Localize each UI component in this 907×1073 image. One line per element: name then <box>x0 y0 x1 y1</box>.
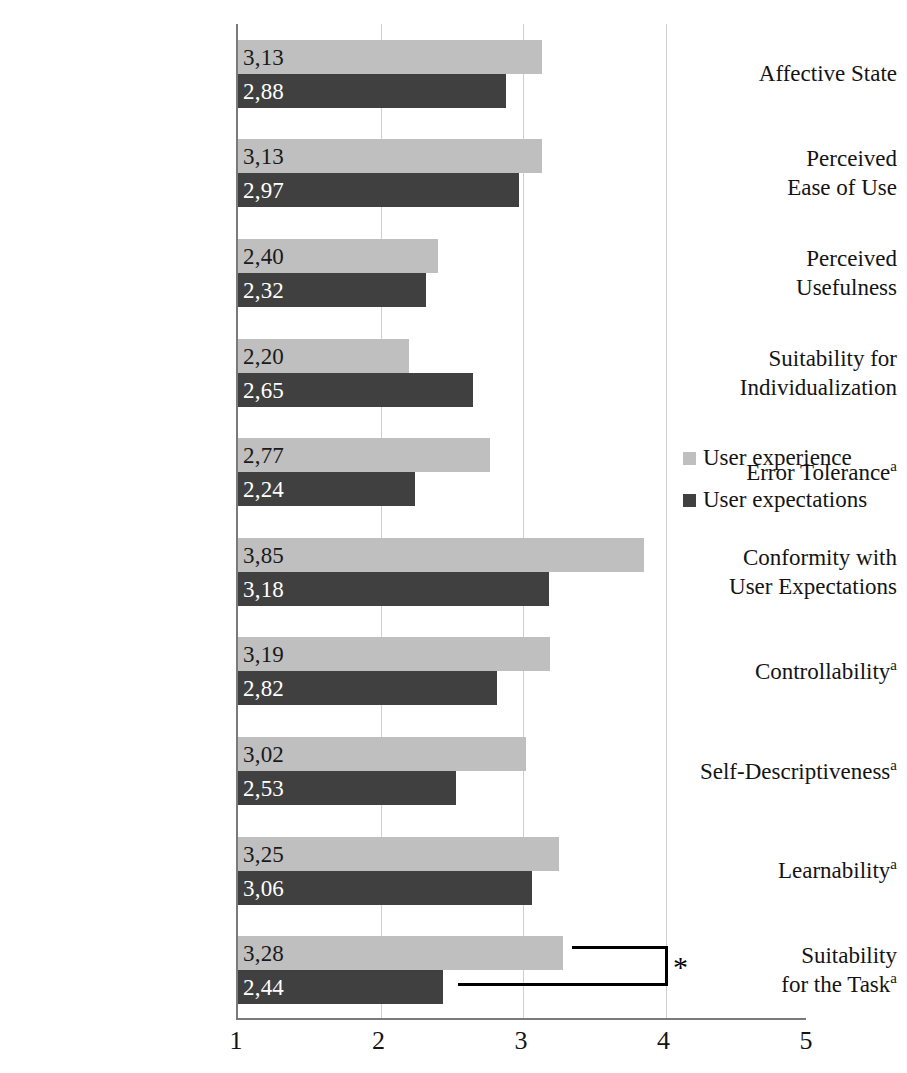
category-label: Conformity withUser Expectations <box>681 543 907 601</box>
category-label-line: Self-Descriptivenessa <box>681 757 897 786</box>
bar-value-label: 3,18 <box>243 577 284 600</box>
x-tick-label-2: 2 <box>349 1026 409 1056</box>
bar-user-experience <box>238 538 644 572</box>
category-label: Affective State <box>681 59 907 88</box>
bar-value-label: 2,97 <box>243 179 284 202</box>
legend-swatch-icon <box>683 494 696 507</box>
bar-value-label: 3,19 <box>243 643 284 666</box>
bar-value-label: 2,20 <box>243 344 284 367</box>
bar-value-label: 2,40 <box>243 245 284 268</box>
category-label-line: Affective State <box>681 59 897 88</box>
category-label-line: Individualization <box>681 373 897 402</box>
bar-user-experience <box>238 837 559 871</box>
bar-value-label: 2,44 <box>243 976 284 999</box>
category-label-line: Suitability <box>681 941 897 970</box>
bar-user-experience <box>238 936 563 970</box>
bar-value-label: 2,77 <box>243 444 284 467</box>
bar-value-label: 2,32 <box>243 279 284 302</box>
category-label: Suitability forIndividualization <box>681 344 907 402</box>
bar-value-label: 2,82 <box>243 677 284 700</box>
footnote-marker: a <box>890 657 897 673</box>
footnote-marker: a <box>890 458 897 474</box>
x-tick-label-4: 4 <box>634 1026 694 1056</box>
bar-value-label: 3,25 <box>243 842 284 865</box>
category-label-line: Conformity with <box>681 543 897 572</box>
x-tick-label-5: 5 <box>776 1026 836 1056</box>
bar-chart: 3,132,883,132,972,402,322,202,652,772,24… <box>0 0 907 1073</box>
bar-value-label: 2,65 <box>243 378 284 401</box>
category-label: PerceivedEase of Use <box>681 144 907 202</box>
category-label-line: Perceived <box>681 144 897 173</box>
bar-value-label: 3,02 <box>243 743 284 766</box>
x-tick-label-1: 1 <box>206 1026 266 1056</box>
category-label: Controllabilitya <box>681 657 907 686</box>
category-label-line: Ease of Use <box>681 173 897 202</box>
footnote-marker: a <box>890 971 897 987</box>
bar-user-experience <box>238 637 550 671</box>
category-label-line: for the Taska <box>681 970 897 999</box>
bar-value-label: 3,85 <box>243 543 284 566</box>
legend-item-user-experience: User experience <box>683 437 867 479</box>
bar-value-label: 3,28 <box>243 942 284 965</box>
legend-label: User expectations <box>703 487 867 513</box>
legend-swatch-icon <box>683 452 696 465</box>
category-label: Self-Descriptivenessa <box>681 757 907 786</box>
legend-label: User experience <box>703 445 852 471</box>
bar-value-label: 3,13 <box>243 145 284 168</box>
bar-value-label: 3,06 <box>243 876 284 899</box>
bar-value-label: 2,88 <box>243 79 284 102</box>
category-label-line: Learnabilitya <box>681 856 897 885</box>
bar-value-label: 2,53 <box>243 777 284 800</box>
x-tick-label-3: 3 <box>491 1026 551 1056</box>
bar-user-expectations <box>238 572 549 606</box>
category-label-line: Controllabilitya <box>681 657 897 686</box>
footnote-marker: a <box>890 757 897 773</box>
legend-item-user-expectations: User expectations <box>683 479 867 521</box>
category-label-line: User Expectations <box>681 572 897 601</box>
bar-value-label: 3,13 <box>243 45 284 68</box>
category-label-line: Usefulness <box>681 273 897 302</box>
category-label: Learnabilitya <box>681 856 907 885</box>
category-label: Suitabilityfor the Taska <box>681 941 907 999</box>
bar-value-label: 2,24 <box>243 478 284 501</box>
legend: User experienceUser expectations <box>683 437 867 521</box>
category-label-line: Perceived <box>681 244 897 273</box>
footnote-marker: a <box>890 856 897 872</box>
category-label-line: Suitability for <box>681 344 897 373</box>
category-label: PerceivedUsefulness <box>681 244 907 302</box>
